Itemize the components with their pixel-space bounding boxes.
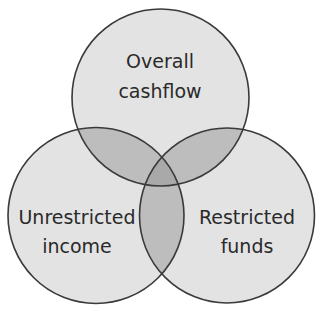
label-unrestricted-line1: Unrestricted	[18, 206, 135, 228]
label-restricted-line1: Restricted	[199, 206, 295, 228]
venn-diagram: Overall cashflow Unrestricted income Res…	[0, 0, 322, 311]
label-overall-line2: cashflow	[118, 80, 201, 102]
label-overall-line1: Overall	[126, 50, 194, 72]
label-unrestricted-line2: income	[42, 235, 112, 257]
label-restricted-line2: funds	[221, 235, 274, 257]
